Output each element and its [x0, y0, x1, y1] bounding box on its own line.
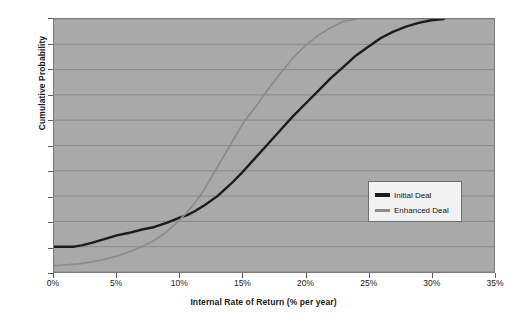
x-tick-label: 5%	[96, 278, 136, 288]
x-tick-mark	[53, 273, 54, 278]
x-tick-mark	[179, 273, 180, 278]
legend: Initial Deal Enhanced Deal	[368, 181, 462, 222]
plot-canvas	[54, 19, 494, 272]
x-tick-mark	[369, 273, 370, 278]
x-tick-label: 10%	[159, 278, 199, 288]
x-tick-label: 0%	[33, 278, 73, 288]
x-tick-label: 30%	[412, 278, 452, 288]
series-lines	[54, 19, 444, 266]
x-axis-title: Internal Rate of Return (% per year)	[0, 297, 527, 307]
cumulative-probability-chart: Cumulative Probability 0.00.10.20.30.40.…	[0, 0, 527, 322]
x-tick-mark	[116, 273, 117, 278]
legend-item-initial-deal: Initial Deal	[375, 188, 461, 202]
plot-area	[53, 18, 495, 273]
legend-swatch-icon	[375, 193, 390, 197]
x-tick-label: 25%	[349, 278, 389, 288]
x-tick-label: 15%	[222, 278, 262, 288]
series-line-enhanced-deal	[54, 19, 356, 266]
x-tick-label: 35%	[475, 278, 515, 288]
x-tick-mark	[306, 273, 307, 278]
x-tick-mark	[495, 273, 496, 278]
legend-label: Enhanced Deal	[394, 206, 449, 215]
x-tick-mark	[242, 273, 243, 278]
legend-swatch-icon	[375, 209, 390, 212]
legend-item-enhanced-deal: Enhanced Deal	[375, 203, 461, 217]
x-tick-mark	[432, 273, 433, 278]
x-tick-label: 20%	[286, 278, 326, 288]
y-axis-title: Cumulative Probability	[37, 3, 47, 163]
legend-label: Initial Deal	[394, 191, 431, 200]
